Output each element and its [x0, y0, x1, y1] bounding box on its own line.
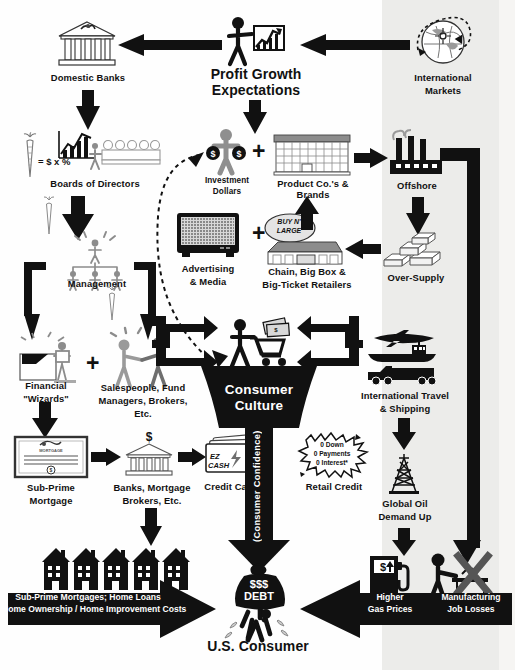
office-building-icon — [272, 131, 352, 175]
arrow-down-banks — [76, 90, 100, 130]
node-label-boards: Boards of Directors — [20, 178, 170, 189]
node-label-salespeople-1: Salespeople, Fund — [88, 382, 198, 393]
svg-text:$: $ — [146, 430, 153, 444]
node-label-gas-prices-2: Gas Prices — [350, 604, 430, 616]
node-label-us-consumer: U.S. Consumer — [190, 638, 326, 654]
arrow-right-to-offshore — [354, 148, 388, 168]
node-label-subprime-1: Sub-Prime — [10, 482, 92, 493]
bank-building-icon — [55, 20, 119, 68]
debt-bag-line1: $$$ — [228, 578, 290, 591]
bracket-split-down-management — [24, 262, 156, 340]
credit-card-brand-line2: CASH — [208, 461, 240, 470]
node-label-wizards-1: Financial — [6, 380, 86, 391]
arrow-down-boards — [62, 196, 94, 240]
credit-card-brand-line1: EZ — [210, 452, 236, 461]
debt-bag-line2: DEBT — [228, 590, 290, 603]
arrow-down-profit — [243, 100, 267, 134]
node-label-consumer-confidence: (Consumer Confidence) — [252, 428, 262, 542]
carrot-icon — [22, 133, 38, 179]
shopper-cart-money-icon: $ — [226, 318, 292, 368]
arrow-right-to-credit-cards — [178, 448, 206, 466]
plus-investment-products: + — [252, 140, 265, 163]
plus-advertising-retailers: + — [252, 222, 265, 245]
mortgage-certificate-icon: MORTGAGE $ — [14, 436, 88, 478]
retail-offer-line2: 0 Payments — [300, 450, 364, 458]
node-label-retail-credit: Retail Credit — [294, 481, 374, 492]
node-label-profit-growth-2: Expectations — [196, 82, 316, 98]
node-label-domestic-banks: Domestic Banks — [18, 72, 158, 83]
node-label-job-losses-1: Manufacturing — [428, 592, 514, 604]
node-label-salespeople-2: Managers, Brokers, — [88, 395, 198, 406]
node-label-banks-mortgage-2: Brokers, Etc. — [104, 495, 200, 506]
node-label-travel-shipping-2: & Shipping — [352, 403, 458, 414]
retail-offer-line3: 0 Interest* — [300, 459, 364, 467]
bank-dollar-icon: $ — [122, 430, 176, 478]
svg-text:MORTGAGE: MORTGAGE — [39, 448, 63, 453]
arrow-left-to-banks — [118, 34, 222, 56]
node-label-retailers-2: Big-Ticket Retailers — [255, 279, 359, 290]
node-label-intl-markets-1: International — [383, 72, 503, 83]
node-label-consumer-culture-1: Consumer — [201, 382, 317, 398]
node-label-global-oil-2: Demand Up — [356, 511, 454, 522]
oil-derrick-icon — [388, 452, 420, 494]
diagram-canvas: Domestic Banks Profit Growth Expectation… — [0, 0, 515, 670]
node-label-global-oil-1: Global Oil — [356, 498, 454, 509]
node-label-profit-growth-1: Profit Growth — [196, 66, 316, 82]
arrow-down-to-subprime — [32, 402, 58, 438]
node-label-over-supply: Over-Supply — [372, 272, 460, 283]
arrow-left-to-profit — [300, 34, 410, 56]
node-label-salespeople-3: Etc. — [88, 408, 198, 419]
node-label-housing-costs-1: Sub-Prime Mortgages; Home Loans — [8, 592, 168, 604]
globe-orbit-icon — [412, 14, 474, 68]
node-label-intl-markets-2: Markets — [383, 85, 503, 96]
plus-wizards-salespeople: + — [86, 352, 99, 375]
arrow-down-to-gas-prices — [392, 528, 416, 556]
node-label-retailers-1: Chain, Big Box & — [255, 266, 359, 277]
node-label-gas-prices-1: Higher — [350, 592, 430, 604]
arrow-down-banks-to-housing — [140, 508, 162, 546]
svg-text:$: $ — [50, 467, 53, 473]
node-label-travel-shipping-1: International Travel — [352, 390, 458, 401]
background-panel-edge — [499, 0, 515, 670]
arrow-left-to-retailers — [345, 239, 381, 259]
stacked-boxes-icon — [382, 232, 448, 268]
factory-smokestacks-icon — [388, 130, 444, 176]
node-label-consumer-culture-2: Culture — [201, 398, 317, 414]
node-label-banks-mortgage-1: Banks, Mortgage — [104, 482, 200, 493]
elbow-down-right-rail — [440, 148, 492, 548]
arrow-down-to-oil — [392, 418, 416, 450]
person-pointing-chart-icon — [224, 16, 288, 66]
arrow-up-to-products — [295, 196, 319, 230]
arrow-down-offshore — [406, 197, 430, 235]
arrow-right-to-banks-mortgage — [91, 448, 121, 466]
wizard-presenter-icon — [18, 338, 78, 386]
plane-ship-truck-icon — [366, 330, 444, 386]
svg-text:$: $ — [380, 561, 386, 573]
retail-offer-line1: 0 Down — [300, 441, 364, 449]
carrot-icon-boards-arrow — [42, 196, 56, 236]
node-label-job-losses-2: Job Losses — [428, 604, 514, 616]
node-label-housing-costs-2: Home Ownership / Home Improvement Costs — [2, 604, 174, 616]
node-label-subprime-2: Mortgage — [10, 495, 92, 506]
